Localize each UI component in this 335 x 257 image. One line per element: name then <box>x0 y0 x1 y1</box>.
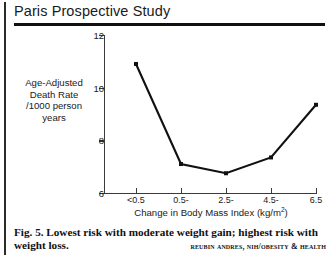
chart-plot-area: Age-Adjusted Death Rate /1000 person yea… <box>0 0 335 257</box>
data-point-4 <box>269 155 273 159</box>
data-point-5 <box>314 103 318 107</box>
figure-attribution: Reubin Andres, NIH/Obesity & Health <box>190 240 326 253</box>
data-series-line <box>0 0 335 257</box>
figure-caption-line-1: Fig. 5. Lowest risk with moderate weight… <box>14 226 326 239</box>
data-point-2 <box>179 162 183 166</box>
figure-panel: Paris Prospective Study Age-Adjusted Dea… <box>0 0 335 257</box>
figure-caption-continuation: weight loss. <box>14 239 69 252</box>
data-point-3 <box>224 171 228 175</box>
x-axis-label-main: Change in Body Mass Index (kg/m <box>134 207 281 218</box>
x-axis-label-tail: ) <box>285 207 288 218</box>
data-point-1 <box>134 62 138 66</box>
figure-caption-line-2: weight loss. Reubin Andres, NIH/Obesity … <box>14 239 326 253</box>
x-axis-label: Change in Body Mass Index (kg/m2) <box>104 206 318 218</box>
